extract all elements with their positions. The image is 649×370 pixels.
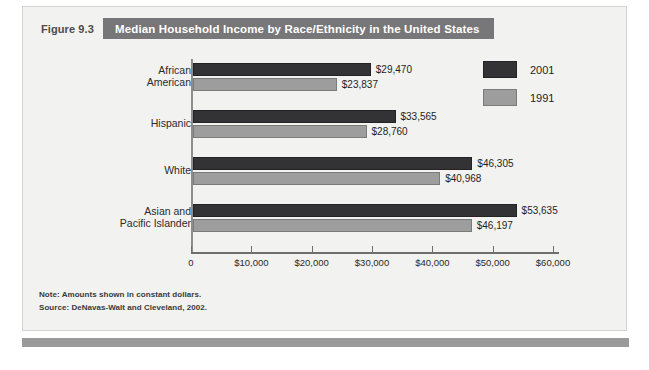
x-axis-tick-label: $50,000 — [475, 257, 509, 268]
x-axis-tick — [251, 246, 252, 253]
legend-item-2001: 2001 — [483, 61, 603, 78]
bar-value-label: $23,837 — [342, 78, 378, 91]
chart-area: 0$10,000$20,000$30,000$40,000$50,000$60,… — [39, 53, 611, 285]
x-axis-tick-label: $40,000 — [415, 257, 449, 268]
bar-value-label: $46,305 — [477, 157, 513, 170]
x-axis-tick-label: $30,000 — [355, 257, 389, 268]
figure-page: Figure 9.3 Median Household Income by Ra… — [0, 0, 649, 370]
x-axis-tick-label: $10,000 — [234, 257, 268, 268]
category-label: White — [61, 165, 191, 177]
bar-2001 — [193, 157, 472, 170]
bar-group: Asian andPacific Islander$53,635$46,197 — [39, 204, 611, 232]
legend-swatch-2001 — [483, 61, 517, 78]
x-axis-tick — [493, 246, 494, 253]
figure-title: Median Household Income by Race/Ethnicit… — [115, 23, 480, 35]
category-label-line: Pacific Islander — [61, 218, 191, 230]
bar-value-label: $40,968 — [445, 172, 481, 185]
chart-legend: 2001 1991 — [483, 61, 603, 117]
category-label: AfricanAmerican — [61, 65, 191, 88]
figure-footnotes: Note: Amounts shown in constant dollars.… — [39, 288, 559, 314]
x-axis-tick-label: $60,000 — [536, 257, 570, 268]
legend-swatch-1991 — [483, 89, 517, 106]
x-axis-tick-label: 0 — [188, 257, 193, 268]
x-axis-tick — [191, 246, 192, 253]
bar-1991 — [193, 172, 440, 185]
legend-item-1991: 1991 — [483, 89, 603, 106]
bar-value-label: $28,760 — [372, 125, 408, 138]
bar-value-label: $53,635 — [522, 204, 558, 217]
bar-1991 — [193, 78, 337, 91]
bar-value-label: $29,470 — [376, 63, 412, 76]
bar-2001 — [193, 63, 371, 76]
x-axis-line — [191, 252, 559, 254]
x-axis-tick-label: $20,000 — [294, 257, 328, 268]
category-label-line: Hispanic — [61, 118, 191, 130]
figure-label: Figure 9.3 — [39, 18, 103, 39]
bar-group: White$46,305$40,968 — [39, 157, 611, 185]
source-line: Source: DeNavas-Walt and Cleveland, 2002… — [39, 301, 559, 314]
bar-1991 — [193, 125, 367, 138]
figure-panel: Figure 9.3 Median Household Income by Ra… — [22, 6, 627, 331]
figure-title-band: Median Household Income by Race/Ethnicit… — [103, 18, 494, 39]
bar-value-label: $46,197 — [477, 219, 513, 232]
category-label: Asian andPacific Islander — [61, 206, 191, 229]
legend-label-1991: 1991 — [530, 92, 554, 104]
note-line: Note: Amounts shown in constant dollars. — [39, 288, 559, 301]
x-axis-tick — [312, 246, 313, 253]
bar-2001 — [193, 204, 517, 217]
figure-header: Figure 9.3 Median Household Income by Ra… — [39, 18, 494, 39]
category-label-line: White — [61, 165, 191, 177]
x-axis-tick — [372, 246, 373, 253]
x-axis-tick — [432, 246, 433, 253]
bar-1991 — [193, 219, 472, 232]
legend-label-2001: 2001 — [530, 64, 554, 76]
bottom-rule — [22, 338, 629, 347]
bar-2001 — [193, 110, 396, 123]
category-label: Hispanic — [61, 118, 191, 130]
x-axis-tick — [553, 246, 554, 253]
category-label-line: American — [61, 77, 191, 89]
bar-value-label: $33,565 — [401, 110, 437, 123]
category-label-line: African — [61, 65, 191, 77]
plot-area: 0$10,000$20,000$30,000$40,000$50,000$60,… — [39, 53, 611, 285]
category-label-line: Asian and — [61, 206, 191, 218]
